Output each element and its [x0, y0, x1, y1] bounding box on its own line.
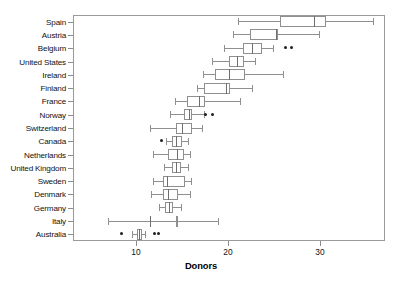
whisker-upper — [262, 48, 273, 49]
whisker-cap-upper — [190, 151, 191, 158]
median-line — [176, 136, 177, 147]
median-line — [150, 216, 151, 227]
median-line — [226, 83, 227, 94]
box-plot-row — [0, 148, 402, 161]
whisker-lower — [153, 181, 162, 182]
whisker-cap-lower — [159, 204, 160, 211]
whisker-cap-upper — [252, 85, 253, 92]
x-tick-label: 10 — [131, 247, 140, 257]
x-tick-mark — [228, 241, 229, 246]
median-line — [139, 229, 140, 240]
box-iqr — [280, 16, 327, 27]
box-plot-row — [0, 122, 402, 135]
whisker-cap-lower — [153, 151, 154, 158]
box-iqr — [163, 176, 185, 187]
median-line — [169, 202, 170, 213]
whisker-cap-upper — [319, 31, 320, 38]
x-axis-title: Donors — [0, 260, 402, 271]
whisker-upper — [230, 88, 252, 89]
median-line — [314, 16, 315, 27]
outlier-point — [211, 113, 214, 116]
whisker-cap-lower — [132, 231, 133, 238]
whisker-lower — [164, 167, 172, 168]
whisker-cap-upper — [181, 204, 182, 211]
box-plot-row — [0, 95, 402, 108]
whisker-upper — [278, 34, 319, 35]
box-plot-row — [0, 175, 402, 188]
box-iqr — [250, 29, 278, 40]
box-plot-row — [0, 28, 402, 41]
whisker-cap-lower — [151, 191, 152, 198]
whisker-lower — [170, 114, 184, 115]
whisker-cap-lower — [153, 178, 154, 185]
whisker-lower — [153, 154, 169, 155]
whisker-upper — [192, 128, 202, 129]
median-line — [177, 149, 178, 160]
whisker-upper — [326, 21, 373, 22]
outlier-point — [290, 46, 293, 49]
whisker-cap-upper — [218, 218, 219, 225]
whisker-cap-lower — [238, 18, 239, 25]
median-line — [182, 123, 183, 134]
outlier-point — [120, 232, 123, 235]
outlier-point — [153, 232, 156, 235]
box-iqr — [187, 96, 205, 107]
median-line — [252, 43, 253, 54]
whisker-lower — [108, 221, 175, 222]
x-tick-label: 20 — [223, 247, 232, 257]
box-plot-row — [0, 42, 402, 55]
whisker-cap-upper — [273, 45, 274, 52]
x-tick-label: 30 — [315, 247, 324, 257]
whisker-cap-lower — [233, 31, 234, 38]
whisker-lower — [224, 48, 242, 49]
whisker-cap-lower — [197, 85, 198, 92]
box-plot-row — [0, 68, 402, 81]
box-iqr — [168, 149, 184, 160]
whisker-upper — [178, 194, 190, 195]
whisker-cap-upper — [373, 18, 374, 25]
box-plot-row — [0, 55, 402, 68]
box-iqr — [172, 136, 182, 147]
median-line — [199, 96, 200, 107]
whisker-upper — [192, 114, 204, 115]
whisker-upper — [244, 61, 255, 62]
box-plot-row — [0, 82, 402, 95]
median-line — [276, 29, 277, 40]
box-plot-row — [0, 161, 402, 174]
box-plot-row — [0, 228, 402, 241]
box-plot-row — [0, 215, 402, 228]
whisker-cap-lower — [175, 98, 176, 105]
whisker-upper — [205, 101, 240, 102]
x-tick-mark — [320, 241, 321, 246]
median-line — [237, 56, 238, 67]
outlier-point — [157, 232, 160, 235]
whisker-cap-upper — [240, 98, 241, 105]
box-plot-row — [0, 135, 402, 148]
whisker-cap-upper — [188, 138, 189, 145]
whisker-lower — [233, 34, 250, 35]
whisker-upper — [245, 74, 284, 75]
box-iqr — [184, 109, 192, 120]
outlier-point — [284, 46, 287, 49]
whisker-cap-upper — [145, 231, 146, 238]
whisker-lower — [238, 21, 279, 22]
whisker-cap-lower — [164, 164, 165, 171]
whisker-cap-upper — [191, 178, 192, 185]
median-line — [189, 109, 190, 120]
whisker-cap-upper — [202, 125, 203, 132]
median-line — [229, 69, 230, 80]
median-line — [168, 189, 169, 200]
whisker-cap-lower — [212, 58, 213, 65]
whisker-lower — [150, 128, 176, 129]
whisker-cap-lower — [108, 218, 109, 225]
whisker-cap-lower — [203, 71, 204, 78]
whisker-cap-upper — [190, 191, 191, 198]
box-iqr — [176, 216, 178, 227]
x-tick-mark — [136, 241, 137, 246]
whisker-upper — [173, 207, 181, 208]
whisker-upper — [176, 221, 218, 222]
box-iqr — [163, 189, 179, 200]
whisker-cap-lower — [170, 111, 171, 118]
whisker-lower — [151, 194, 163, 195]
box-plot-row — [0, 108, 402, 121]
